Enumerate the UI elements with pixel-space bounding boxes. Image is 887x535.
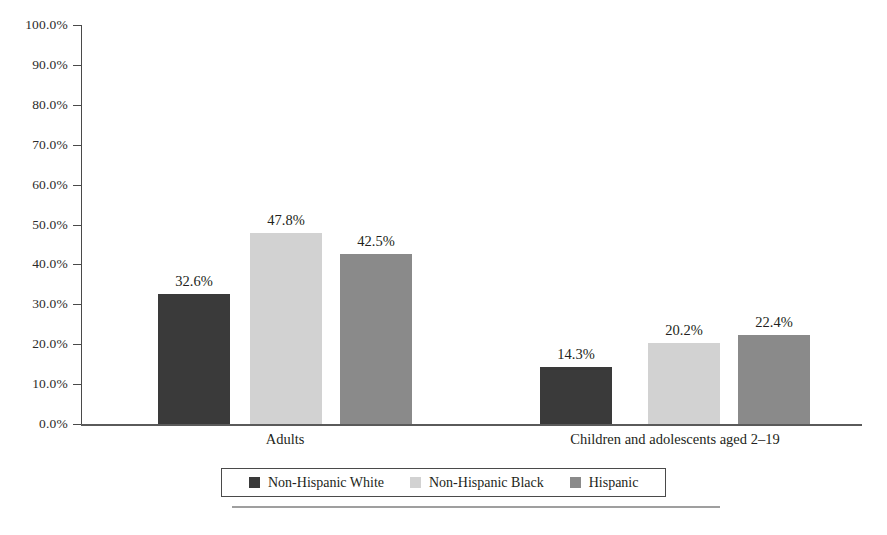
- y-axis-tick-label: 90.0%: [0, 58, 68, 72]
- bar-value-label: 20.2%: [665, 323, 702, 338]
- chart-legend: Non-Hispanic WhiteNon-Hispanic BlackHisp…: [221, 468, 666, 497]
- y-axis-tick-label: 30.0%: [0, 297, 68, 311]
- bar: 14.3%: [540, 367, 612, 424]
- y-axis-tick: [73, 304, 81, 305]
- page-rule: [232, 506, 720, 508]
- y-axis-tick: [73, 65, 81, 66]
- bar-value-label: 14.3%: [557, 347, 594, 362]
- y-axis-tick: [73, 145, 81, 146]
- y-axis-tick: [73, 105, 81, 106]
- bar-value-label: 42.5%: [357, 234, 394, 249]
- bar: 32.6%: [158, 294, 230, 424]
- legend-item: Non-Hispanic White: [249, 475, 384, 490]
- legend-swatch-icon: [410, 477, 421, 488]
- y-axis-tick-label: 60.0%: [0, 178, 68, 192]
- y-axis-tick-label: 10.0%: [0, 377, 68, 391]
- bar-value-label: 47.8%: [267, 213, 304, 228]
- y-axis-tick-label: 100.0%: [0, 18, 68, 32]
- y-axis-tick-label: 0.0%: [0, 417, 68, 431]
- y-axis-tick: [73, 264, 81, 265]
- y-axis-tick: [73, 424, 81, 425]
- x-axis-group-label: Adults: [85, 431, 485, 447]
- y-axis-tick-label: 50.0%: [0, 218, 68, 232]
- bar: 42.5%: [340, 254, 412, 424]
- legend-swatch-icon: [570, 477, 581, 488]
- y-axis-tick: [73, 384, 81, 385]
- legend-item: Hispanic: [570, 475, 639, 490]
- legend-label: Non-Hispanic Black: [429, 475, 544, 490]
- bar-value-label: 22.4%: [755, 315, 792, 330]
- legend-item: Non-Hispanic Black: [410, 475, 544, 490]
- x-axis-group-label: Children and adolescents aged 2–19: [475, 431, 875, 447]
- legend-label: Hispanic: [589, 475, 639, 490]
- y-axis-tick: [73, 25, 81, 26]
- y-axis-tick: [73, 185, 81, 186]
- y-axis-tick-label: 40.0%: [0, 257, 68, 271]
- legend-label: Non-Hispanic White: [268, 475, 384, 490]
- bar-chart: 100.0%90.0%80.0%70.0%60.0%50.0%40.0%30.0…: [0, 0, 887, 535]
- y-axis-tick: [73, 225, 81, 226]
- bar: 47.8%: [250, 233, 322, 424]
- y-axis-tick-label: 20.0%: [0, 337, 68, 351]
- legend-swatch-icon: [249, 477, 260, 488]
- bars-layer: 32.6%47.8%42.5%14.3%20.2%22.4%: [81, 25, 862, 424]
- bar: 22.4%: [738, 335, 810, 424]
- y-axis-tick-label: 80.0%: [0, 98, 68, 112]
- y-axis-tick: [73, 344, 81, 345]
- x-axis-line: [81, 424, 862, 426]
- y-axis-tick-label: 70.0%: [0, 138, 68, 152]
- bar: 20.2%: [648, 343, 720, 424]
- bar-value-label: 32.6%: [175, 274, 212, 289]
